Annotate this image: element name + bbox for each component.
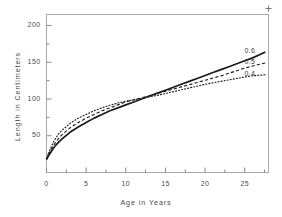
y-tick-label: 200 xyxy=(15,21,41,28)
y-tick-label: 150 xyxy=(15,58,41,65)
chart-series-line xyxy=(47,52,266,159)
y-tick-label: 50 xyxy=(15,131,41,138)
x-tick-label: 20 xyxy=(193,180,217,187)
x-tick-label: 10 xyxy=(114,180,138,187)
x-tick-label: 15 xyxy=(153,180,177,187)
legend-entry-0-5: 0.5 xyxy=(245,58,256,65)
legend-entry-0-4: 0.4 xyxy=(245,70,256,77)
chart-series-line xyxy=(47,63,266,159)
x-tick-label: 25 xyxy=(233,180,257,187)
x-tick-label: 0 xyxy=(35,180,59,187)
chart-series-line xyxy=(47,75,266,160)
chart-figure: Length in Centimeters Age in Years 50100… xyxy=(0,0,282,217)
legend-entry-0-6: 0.6 xyxy=(245,47,256,54)
y-tick-label: 100 xyxy=(15,95,41,102)
x-axis-title: Age in Years xyxy=(96,198,196,207)
x-tick-label: 5 xyxy=(74,180,98,187)
